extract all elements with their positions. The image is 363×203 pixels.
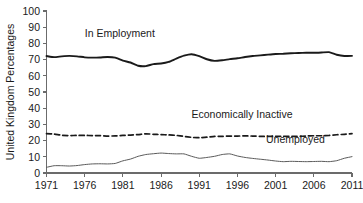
y-tick-label: 50 [28, 86, 40, 98]
y-axis-title: United Kingdom Percentages [4, 24, 16, 161]
series-label-in-employment: In Employment [85, 27, 155, 39]
x-tick-label: 1991 [188, 179, 212, 191]
y-tick-label: 80 [28, 37, 40, 49]
y-tick-label: 90 [28, 21, 40, 33]
x-tick-label: 1981 [111, 179, 135, 191]
line-chart: 0102030405060708090100197119761981198619… [0, 0, 363, 203]
x-tick-label: 2011 [341, 179, 363, 191]
x-tick-label: 1976 [73, 179, 97, 191]
y-tick-label: 30 [28, 118, 40, 130]
x-tick-label: 2001 [264, 179, 288, 191]
series-line-unemployed [47, 153, 353, 167]
y-tick-label: 70 [28, 53, 40, 65]
y-tick-label: 0 [34, 167, 40, 179]
x-tick-label: 1986 [149, 179, 173, 191]
y-tick-label: 40 [28, 102, 40, 114]
x-tick-label: 1971 [35, 179, 59, 191]
series-label-economically-inactive: Economically Inactive [192, 108, 293, 120]
series-label-unemployed: Unemployed [266, 133, 325, 145]
chart-container: 0102030405060708090100197119761981198619… [0, 0, 363, 203]
series-line-in-employment [47, 52, 353, 66]
y-tick-label: 10 [28, 151, 40, 163]
y-tick-label: 60 [28, 70, 40, 82]
y-tick-label: 100 [22, 5, 40, 17]
x-tick-label: 1996 [226, 179, 250, 191]
y-tick-label: 20 [28, 134, 40, 146]
x-tick-label: 2006 [302, 179, 326, 191]
